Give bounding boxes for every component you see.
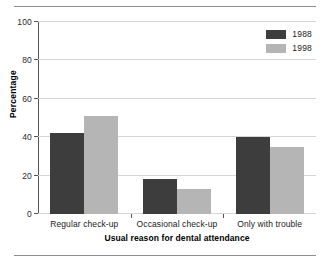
y-axis-title: Percentage (8, 70, 18, 118)
legend-item-1988: 1988 (266, 29, 312, 39)
group-separator-tick (131, 214, 132, 218)
bar-1988-2 (236, 137, 270, 214)
y-tick-label: 0 (27, 209, 32, 219)
bar-chart-figure: Percentage 020406080100 Regular check-up… (0, 0, 330, 263)
x-axis-title: Usual reason for dental attendance (38, 233, 316, 243)
bar-1988-1 (143, 179, 177, 214)
top-rule (14, 6, 316, 7)
group-separator-tick (223, 214, 224, 218)
bar-1998-2 (270, 147, 304, 214)
bar-group (131, 22, 224, 214)
bar-1998-1 (177, 189, 211, 214)
legend: 19881998 (266, 29, 312, 57)
bar-group (38, 22, 131, 214)
bottom-rule (14, 255, 316, 256)
legend-label: 1988 (292, 29, 312, 39)
legend-item-1998: 1998 (266, 43, 312, 53)
legend-swatch-icon (266, 44, 286, 53)
category-label: Only with trouble (223, 219, 316, 229)
bar-1998-0 (84, 116, 118, 214)
legend-swatch-icon (266, 30, 286, 39)
category-label: Occasional check-up (131, 219, 224, 229)
y-tick-label: 100 (17, 17, 32, 27)
category-labels: Regular check-upOccasional check-upOnly … (38, 219, 316, 229)
y-tick-label: 40 (22, 132, 32, 142)
legend-label: 1998 (292, 43, 312, 53)
bar-1988-0 (50, 133, 84, 214)
category-label: Regular check-up (38, 219, 131, 229)
y-tick-label: 80 (22, 55, 32, 65)
y-tick-label: 20 (22, 171, 32, 181)
y-tick-label: 60 (22, 94, 32, 104)
